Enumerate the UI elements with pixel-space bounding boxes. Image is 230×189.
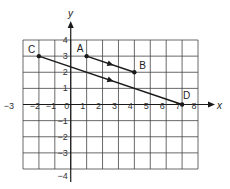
y-tick-label: −2 [57,132,67,142]
point-label-D: D [183,90,190,101]
y-tick-label: 4 [63,35,68,45]
y-tick-label: −3 [57,148,67,158]
x-tick-label: 4 [128,101,133,111]
point-label-B: B [139,60,146,71]
direction-arrow-icon [107,60,115,68]
x-tick-label: 8 [191,101,196,111]
coordinate-grid-diagram: −3−2−10123456784321−1−2−3−4 ABCD x y [0,0,230,189]
x-axis-arrow-icon [208,102,215,108]
y-tick-label: −1 [57,116,67,126]
point-D [180,102,184,106]
segments [39,56,182,104]
x-tick-label: −3 [4,101,14,111]
y-tick-label: −4 [57,171,67,181]
x-tick-label: 2 [96,101,101,111]
x-tick-label: 1 [80,101,85,111]
direction-arrow-icon [107,77,115,85]
tick-labels: −3−2−10123456784321−1−2−3−4 [4,35,197,181]
x-tick-label: 6 [160,101,165,111]
x-axis-label: x [216,100,223,111]
point-label-C: C [28,44,35,55]
x-tick-label: 5 [144,101,149,111]
x-tick-label: 3 [112,101,117,111]
point-A [84,54,88,58]
x-tick-label: −2 [30,101,40,111]
point-C [37,54,41,58]
y-tick-label: 3 [63,51,68,61]
y-axis-label: y [67,8,74,19]
y-tick-label: 2 [63,67,68,77]
point-label-A: A [77,43,84,54]
x-tick-label: −1 [46,101,56,111]
point-B [132,70,136,74]
y-axis-arrow-icon [68,21,74,28]
x-tick-label: 0 [64,101,69,111]
y-tick-label: 1 [63,83,68,93]
